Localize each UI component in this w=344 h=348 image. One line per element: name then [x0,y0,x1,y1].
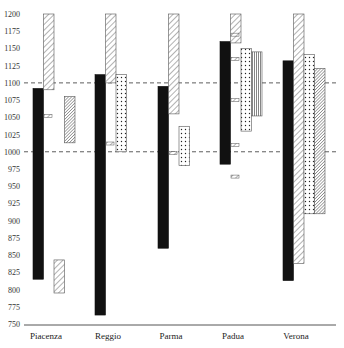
y-tick-label: 1100 [4,79,20,88]
y-tick-label: 1000 [4,148,20,157]
range-bar-dotted [241,48,252,131]
category-group-padua [220,14,262,178]
point-marker [106,142,114,145]
range-bar-diagonal [106,14,117,83]
range-bar-diagonal [294,14,305,263]
range-bar-solid [33,88,44,279]
y-tick-label: 1050 [4,113,20,122]
category-group-piacenza [33,14,75,293]
point-marker [231,175,239,178]
range-bar-dotted [304,55,315,214]
y-tick-label: 750 [8,320,20,329]
x-axis: PiacenzaReggioParmaPaduaVerona [24,325,336,341]
y-tick-label: 775 [8,303,20,312]
point-marker [231,57,239,60]
point-marker [231,99,239,102]
range-bar-dense-diagonal [65,97,76,143]
x-category-label: Padua [222,331,244,341]
category-group-reggio [95,14,127,315]
range-bar-vertical [252,52,263,116]
range-chart: 7507758008258508759009259509751000102510… [0,0,344,348]
point-marker [169,152,177,155]
x-category-label: Verona [283,331,309,341]
range-bar-solid [283,61,294,281]
y-tick-label: 1175 [4,27,20,36]
y-tick-label: 1200 [4,10,20,19]
range-bar-diagonal [231,14,242,43]
bars [33,14,325,315]
y-tick-label: 1125 [4,62,20,71]
y-tick-label: 825 [8,268,20,277]
range-bar-solid [158,86,169,248]
range-bar-dotted [179,126,190,165]
y-tick-label: 900 [8,217,20,226]
y-tick-label: 875 [8,234,20,243]
y-tick-label: 1075 [4,96,20,105]
y-tick-label: 1025 [4,131,20,140]
range-bar-diagonal [44,14,55,90]
point-marker [44,114,52,117]
x-category-label: Reggio [95,331,121,341]
range-bar-dotted [116,75,127,152]
y-tick-label: 1150 [4,44,20,53]
x-category-label: Piacenza [30,331,62,341]
point-marker [231,33,239,36]
range-bar-solid [95,75,106,315]
range-bar-diagonal [54,260,65,293]
y-tick-label: 975 [8,165,20,174]
y-tick-label: 950 [8,182,20,191]
category-group-verona [283,14,325,281]
y-tick-label: 850 [8,251,20,260]
range-bar-dense-diagonal [315,68,326,213]
range-bar-diagonal [169,14,180,114]
y-tick-label: 925 [8,199,20,208]
y-tick-label: 800 [8,286,20,295]
range-bar-solid [220,42,231,165]
x-category-label: Parma [160,331,183,341]
point-marker [231,143,239,146]
category-group-parma [158,14,190,248]
y-axis: 7507758008258508759009259509751000102510… [4,10,20,329]
